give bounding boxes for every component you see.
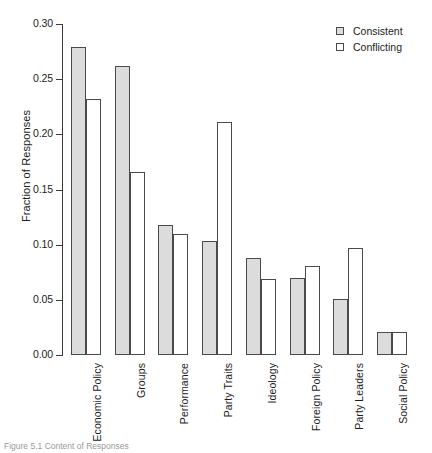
legend-label-consistent: Consistent [353, 25, 403, 37]
x-axis-label-party-leaders: Party Leaders [353, 363, 365, 430]
bar-conflicting-ideology [261, 279, 276, 355]
bar-consistent-social-policy [377, 332, 392, 355]
bar-consistent-performance [158, 225, 173, 355]
legend-label-conflicting: Conflicting [353, 41, 402, 53]
bar-group [246, 24, 276, 355]
y-axis-tick-label: 0.00 [33, 348, 53, 360]
bar-consistent-groups [115, 66, 130, 355]
bar-group [290, 24, 320, 355]
x-axis-label-party-traits: Party Traits [222, 363, 234, 417]
bar-consistent-economic-policy [71, 47, 86, 355]
bar-consistent-ideology [246, 258, 261, 355]
legend-swatch-consistent-icon [336, 27, 344, 35]
y-axis-tick-label: 0.05 [33, 293, 53, 305]
bar-group [115, 24, 145, 355]
x-axis-label-groups: Groups [135, 363, 147, 398]
chart-legend: Consistent Conflicting [336, 24, 403, 56]
y-axis-tick-label: 0.25 [33, 72, 53, 84]
bar-conflicting-groups [130, 172, 145, 355]
bar-group [377, 24, 407, 355]
x-axis-label-performance: Performance [178, 363, 190, 424]
x-axis-label-foreign-policy: Foreign Policy [310, 363, 322, 431]
bar-chart-figure: Fraction of Responses 0.000.050.100.150.… [0, 0, 432, 453]
bar-consistent-party-traits [202, 241, 217, 355]
bar-conflicting-foreign-policy [305, 266, 320, 355]
y-axis-tick-label: 0.30 [33, 17, 53, 29]
x-axis-label-economic-policy: Economic Policy [91, 363, 103, 442]
bar-conflicting-party-leaders [348, 248, 363, 355]
x-axis-label-social-policy: Social Policy [397, 363, 409, 424]
plot-area [62, 24, 412, 355]
y-axis-tick-label: 0.10 [33, 238, 53, 250]
figure-caption: Figure 5.1 Content of Responses [4, 441, 129, 452]
y-axis-tick: 0.00 [56, 355, 62, 356]
bar-group [158, 24, 188, 355]
bar-conflicting-party-traits [217, 122, 232, 355]
y-axis-tick-label: 0.20 [33, 127, 53, 139]
bar-conflicting-performance [173, 234, 188, 355]
legend-item-conflicting: Conflicting [336, 40, 403, 54]
bar-group [71, 24, 101, 355]
bar-consistent-foreign-policy [290, 278, 305, 355]
y-axis-label: Fraction of Responses [20, 86, 32, 246]
legend-item-consistent: Consistent [336, 24, 403, 38]
bar-group [333, 24, 363, 355]
bar-group [202, 24, 232, 355]
x-axis-label-ideology: Ideology [266, 363, 278, 404]
y-axis-tick-label: 0.15 [33, 183, 53, 195]
bar-consistent-party-leaders [333, 299, 348, 355]
bar-conflicting-social-policy [392, 332, 407, 355]
legend-swatch-conflicting-icon [336, 43, 344, 51]
bar-conflicting-economic-policy [86, 99, 101, 355]
